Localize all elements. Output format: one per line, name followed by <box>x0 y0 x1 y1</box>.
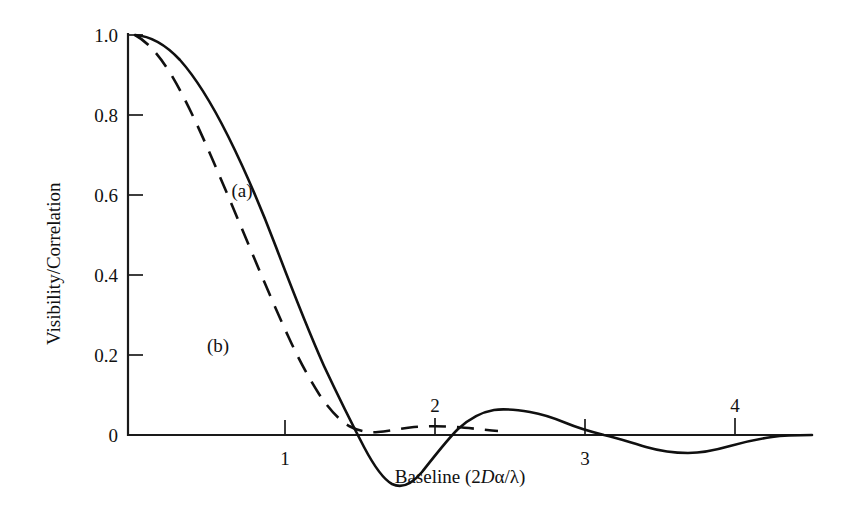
y-tick-label-0_4: 0.4 <box>94 265 118 286</box>
curve-b-label: (b) <box>207 335 229 357</box>
y-axis-title: Visibility/Correlation <box>43 182 64 345</box>
y-tick-label-0: 0 <box>109 425 119 446</box>
x-tick-label-3: 3 <box>580 448 590 469</box>
y-tick-label-0_8: 0.8 <box>94 105 118 126</box>
figure-container: 1.0 0.8 0.6 0.4 0.2 0 Visibility/Correla… <box>0 0 850 518</box>
x-axis-title-suffix: α/λ) <box>494 466 525 488</box>
chart-svg: 1.0 0.8 0.6 0.4 0.2 0 Visibility/Correla… <box>0 0 850 518</box>
curve-a-label: (a) <box>231 180 252 202</box>
x-tick-label-4: 4 <box>730 395 740 416</box>
y-tick-label-0_2: 0.2 <box>94 345 118 366</box>
x-axis-title-italic: D <box>480 466 495 487</box>
y-tick-label-0_6: 0.6 <box>94 185 118 206</box>
x-tick-label-2: 2 <box>430 395 440 416</box>
y-tick-label-1_0: 1.0 <box>94 25 118 46</box>
curve-b-path <box>135 35 498 432</box>
x-tick-label-1: 1 <box>280 448 290 469</box>
curve-a-path <box>135 35 812 486</box>
y-tick-marks <box>128 35 143 355</box>
x-axis-title: Baseline (2Dα/λ) <box>395 466 526 488</box>
